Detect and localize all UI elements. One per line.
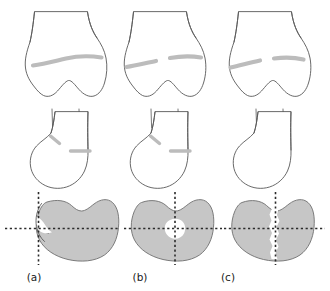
axial-panel-c	[224, 192, 325, 265]
panel-label-b: (b)	[133, 271, 148, 283]
femur-ap-outline-c	[229, 12, 311, 96]
row-axial	[5, 192, 325, 265]
ap-panel-c	[229, 12, 311, 128]
ap-panel-a	[25, 12, 107, 128]
lateral-panel-c	[233, 112, 291, 188]
fracture-line-ap-b-lateral	[170, 56, 201, 58]
lateral-panel-a	[30, 112, 90, 188]
femur-lateral-outline-c	[233, 112, 291, 188]
fracture-line-ap-c-lateral	[274, 58, 304, 60]
ap-panel-b	[124, 12, 206, 128]
tibia-line-left-b	[151, 109, 152, 128]
femur-ap-outline-a	[25, 12, 107, 96]
panel-label-a: (a)	[27, 271, 42, 283]
panel-labels: (a) (b) (c)	[27, 271, 235, 283]
row-anteroposterior	[25, 12, 311, 128]
axial-panel-b	[124, 192, 222, 265]
axial-panel-a	[5, 192, 119, 265]
row-lateral	[30, 112, 291, 188]
figure-container: (a) (b) (c)	[0, 0, 330, 291]
anatomical-figure: (a) (b) (c)	[0, 0, 330, 291]
lateral-panel-b	[130, 112, 190, 188]
femur-ap-outline-b	[124, 12, 206, 96]
panel-label-c: (c)	[221, 271, 235, 283]
